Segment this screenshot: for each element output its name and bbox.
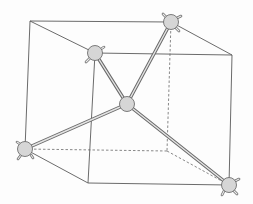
edge-left-bottom bbox=[25, 149, 88, 183]
bond-highlight bbox=[25, 104, 127, 149]
edge-left-top bbox=[30, 21, 95, 53]
edge-front-right-vertical bbox=[229, 55, 232, 185]
atom-front-top-left bbox=[86, 46, 104, 63]
bond-highlight bbox=[127, 22, 171, 104]
diagram-canvas bbox=[0, 0, 253, 204]
hidden-edge-back-right-vertical bbox=[167, 22, 171, 151]
tetrahedral-cube-diagram bbox=[0, 0, 253, 204]
hidden-edge-back-bottom bbox=[25, 149, 167, 151]
hidden-edge-right-bottom bbox=[167, 151, 229, 185]
bond-highlight bbox=[95, 53, 127, 104]
edge-back-top bbox=[30, 21, 171, 22]
edge-right-top bbox=[171, 22, 232, 55]
bond-highlight bbox=[127, 104, 229, 185]
edge-front-top bbox=[95, 53, 232, 55]
edge-back-left-vertical bbox=[25, 21, 30, 149]
edge-front-bottom bbox=[88, 183, 229, 185]
atom-back-bottom-left bbox=[17, 142, 33, 160]
atom-central bbox=[120, 97, 135, 112]
atom-front-bottom-right bbox=[222, 178, 240, 196]
